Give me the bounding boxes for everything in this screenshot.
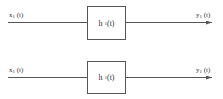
block-arg: (t) — [107, 73, 115, 82]
output-label-1: y1 (t) — [196, 11, 210, 21]
block-var: h — [98, 73, 102, 82]
block-arg: (t) — [107, 19, 115, 28]
input-label-1: x1 (t) — [9, 11, 23, 21]
output-arg: (t) — [204, 66, 211, 74]
input-sub: 1 — [13, 69, 16, 74]
output-sub: 1 — [200, 69, 203, 74]
input-sub: 1 — [13, 14, 16, 19]
input-arg: (t) — [17, 11, 24, 19]
output-sub: 1 — [200, 14, 203, 19]
output-arg: (t) — [204, 11, 211, 19]
system-block-2: h 1(t) — [87, 61, 126, 94]
block-var: h — [98, 19, 102, 28]
input-label-2: x1 (t) — [9, 66, 23, 76]
system-block-1: h 1(t) — [87, 6, 126, 40]
output-label-2: y1 (t) — [196, 66, 210, 76]
input-arg: (t) — [17, 66, 24, 74]
